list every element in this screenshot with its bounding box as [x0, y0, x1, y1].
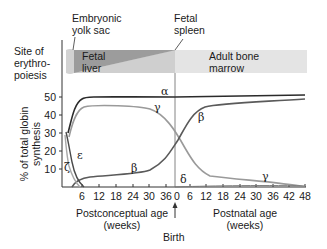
bone-marrow-label-line2: marrow — [209, 62, 259, 74]
y-axis-label-line1: % of total globin — [18, 84, 30, 204]
postconceptual-axis-label: Postconceptual age (weeks) — [72, 207, 172, 231]
y-tick-20: 20 — [36, 145, 56, 157]
x-tick-post-42: 42 — [281, 190, 297, 202]
site-label-line2: erythro- — [14, 57, 50, 69]
yolk-sac-label: Embryonic yolk sac — [72, 12, 122, 36]
bone-marrow-label-line1: Adult bone — [209, 50, 259, 62]
zeta-label: ζ — [64, 162, 70, 174]
x-tick-pre-18: 18 — [108, 190, 124, 202]
yolk-sac-region — [66, 49, 74, 74]
x-tick-post-30: 30 — [248, 190, 264, 202]
fetal-liver-label: Fetal liver — [82, 50, 105, 74]
postnatal-axis-label: Postnatal age (weeks) — [205, 207, 285, 231]
birth-label: Birth — [163, 231, 185, 243]
fetal-liver-label-line2: liver — [82, 62, 105, 74]
x-tick-pre-30: 30 — [141, 190, 157, 202]
postnatal-line2: (weeks) — [205, 219, 285, 231]
x-tick-post-18: 18 — [215, 190, 231, 202]
gamma-label: γ — [154, 102, 161, 114]
x-tick-pre-12: 12 — [91, 190, 107, 202]
x-tick-pre-24: 24 — [125, 190, 141, 202]
postconceptual-line1: Postconceptual age — [72, 207, 172, 219]
site-label: Site of erythro- poiesis — [14, 45, 50, 81]
x-tick-pre-6: 6 — [74, 190, 90, 202]
gamma-curve — [69, 106, 305, 187]
postconceptual-line2: (weeks) — [72, 219, 172, 231]
x-tick-post-12: 12 — [198, 190, 214, 202]
yolk-sac-label-line1: Embryonic — [72, 12, 122, 24]
spleen-pointer — [175, 39, 183, 50]
spleen-label-line1: Fetal — [174, 12, 205, 24]
y-tick-30: 30 — [36, 127, 56, 139]
site-label-line3: poiesis — [14, 69, 50, 81]
alpha-label: α — [161, 86, 168, 98]
birth-arrow-head — [173, 202, 178, 208]
y-tick-10: 10 — [36, 163, 56, 175]
beta-curve — [72, 99, 305, 187]
spleen-label-line2: spleen — [174, 24, 205, 36]
delta-label: δ — [180, 174, 187, 186]
beta-label-postnatal: β — [198, 112, 204, 124]
fetal-liver-label-line1: Fetal — [82, 50, 105, 62]
yolk-sac-label-line2: yolk sac — [72, 24, 122, 36]
x-tick-post-6: 6 — [182, 190, 198, 202]
yolk-sac-pointer — [73, 37, 75, 50]
bone-marrow-label: Adult bone marrow — [209, 50, 259, 74]
y-tick-40: 40 — [36, 109, 56, 121]
postnatal-line1: Postnatal age — [205, 207, 285, 219]
beta-label-prenatal: β — [131, 163, 137, 175]
epsilon-label: ε — [77, 150, 83, 162]
site-label-line1: Site of — [14, 45, 50, 57]
x-tick-post-48: 48 — [297, 190, 313, 202]
x-tick-post-36: 36 — [265, 190, 281, 202]
x-tick-post-24: 24 — [232, 190, 248, 202]
spleen-label: Fetal spleen — [174, 12, 205, 36]
y-tick-50: 50 — [36, 91, 56, 103]
gamma-label-postnatal: γ — [262, 171, 269, 183]
